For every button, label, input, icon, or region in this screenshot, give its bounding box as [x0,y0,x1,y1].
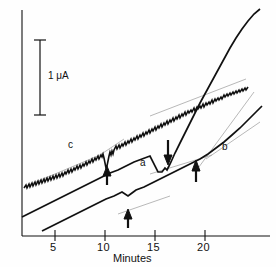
x-tick-label-5: 5 [50,241,57,253]
x-tick-label-20: 20 [197,241,210,253]
curve-label-c: c [68,139,73,150]
curve-label-b: b [222,141,228,152]
figure-panel: 1 μA c a b 5 10 15 20 Minutes [0,0,276,267]
guide-b-baseline [118,196,170,214]
guide-b-upper [206,122,260,159]
arrow-up-curve-c [103,166,111,185]
scale-bar [34,40,46,115]
x-axis-title: Minutes [113,252,152,264]
chart-canvas [0,0,276,267]
scale-bar-label: 1 μA [48,70,69,81]
curve-label-a: a [140,157,146,168]
x-tick-label-10: 10 [97,241,110,253]
guide-c-upper [150,79,246,116]
curve-a [22,9,260,217]
